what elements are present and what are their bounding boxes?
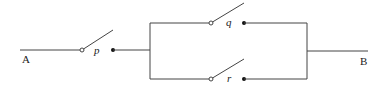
circuit-diagram: A p q r B (0, 0, 384, 86)
terminal-a-label: A (22, 53, 30, 65)
switch-q-label: q (226, 16, 232, 28)
switch-p-label: p (93, 44, 100, 56)
switch-r: r (209, 59, 246, 84)
switch-p: p (80, 30, 115, 56)
switch-q: q (209, 3, 246, 28)
switch-r-label: r (227, 72, 232, 84)
terminal-b-label: B (360, 55, 367, 67)
